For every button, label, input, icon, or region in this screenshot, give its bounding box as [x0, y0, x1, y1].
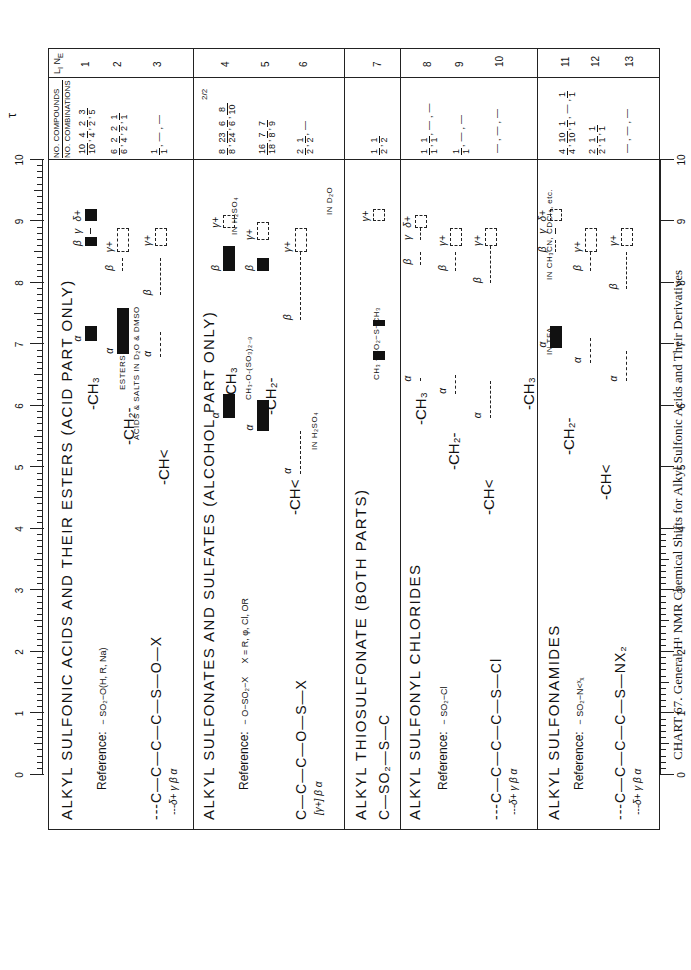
- axis-minor-tick: [37, 516, 43, 517]
- section-divider: [344, 48, 345, 830]
- axis-minor-tick: [660, 676, 666, 677]
- greek-label: δ+: [72, 210, 83, 221]
- shift-range-box-dashed: [450, 228, 462, 246]
- axis-minor-tick: [37, 688, 43, 689]
- axis-minor-tick: [34, 313, 43, 314]
- line-number: 2: [112, 61, 123, 67]
- axis-major-tick: [660, 282, 674, 283]
- axis-tick-label: 6: [676, 403, 687, 409]
- greek-label: α: [572, 357, 583, 363]
- axis-major-tick: [660, 651, 674, 652]
- shift-range-box-dashed: [585, 228, 597, 253]
- compound-fractions: 11,11,—,—: [420, 100, 439, 156]
- axis-minor-tick: [37, 257, 43, 258]
- shift-range-line-dashed: [122, 258, 123, 270]
- axis-minor-tick: [37, 608, 43, 609]
- axis-minor-tick: [37, 694, 43, 695]
- axis-minor-tick: [37, 491, 43, 492]
- axis-major-tick: [30, 344, 44, 345]
- axis-minor-tick: [660, 756, 666, 757]
- line-number: 9: [454, 61, 465, 67]
- axis-minor-tick: [660, 534, 666, 535]
- axis-minor-tick: [37, 479, 43, 480]
- axis-minor-tick: [660, 571, 666, 572]
- section-title-sulfonyl-chlorides: ALKYL SULFONYL CHLORIDES: [406, 563, 423, 820]
- axis-tick-label: 1: [14, 711, 25, 717]
- axis-minor-tick: [37, 719, 43, 720]
- shift-range-bar: [257, 400, 269, 431]
- axis-minor-tick: [660, 583, 666, 584]
- axis-minor-tick: [34, 190, 43, 191]
- section-title-sulfonic-acids: ALKYL SULFONIC ACIDS AND THEIR ESTERS (A…: [58, 279, 75, 820]
- greek-label: γ+: [142, 235, 153, 246]
- axis-tick-label: 4: [14, 526, 25, 532]
- note-ch3o-so3: CH₃-O-(SO₃)₂₋₉: [244, 336, 253, 400]
- axis-minor-tick: [37, 706, 43, 707]
- axis-minor-tick: [37, 307, 43, 308]
- axis-minor-tick: [37, 177, 43, 178]
- group-ch3: -CH₃: [84, 377, 101, 410]
- greek-label: γ+: [572, 241, 583, 252]
- axis-major-tick: [660, 467, 674, 468]
- axis-tick-label: 1: [676, 711, 687, 717]
- line-number: 3: [152, 61, 163, 67]
- greek-label: δ+: [402, 216, 413, 227]
- axis-minor-tick: [37, 319, 43, 320]
- axis-minor-tick: [660, 614, 666, 615]
- axis-major-tick: [30, 590, 44, 591]
- compound-fractions: 88,2324,66,810: [218, 102, 237, 156]
- axis-minor-tick: [34, 251, 43, 252]
- compound-extra: 2/2: [200, 89, 209, 100]
- greek-label: α: [72, 336, 83, 342]
- greek-label: β: [142, 290, 153, 296]
- shift-range-line-dashed: [490, 381, 491, 418]
- line-number: 4: [220, 61, 231, 67]
- axis-minor-tick: [37, 602, 43, 603]
- axis-major-tick: [30, 467, 44, 468]
- axis-minor-tick: [37, 571, 43, 572]
- axis-tick-label: 6: [14, 403, 25, 409]
- greek-label: γ+: [437, 235, 448, 246]
- axis-minor-tick: [37, 546, 43, 547]
- section-title-sulfonates: ALKYL SULFONATES AND SULFATES (ALCOHOL P…: [200, 311, 217, 820]
- compound-fractions: 22,12,—: [296, 118, 315, 156]
- axis-minor-tick: [37, 294, 43, 295]
- shift-range-line-dashed: [626, 252, 627, 289]
- axis-minor-tick: [660, 700, 666, 701]
- greek-label: α: [104, 348, 115, 354]
- axis-major-tick: [660, 344, 674, 345]
- greek-label: β: [437, 265, 448, 271]
- axis-minor-tick: [660, 657, 666, 658]
- greek-label: α: [244, 425, 255, 431]
- shift-range-line-dashed: [555, 240, 556, 252]
- axis-minor-tick: [660, 669, 666, 670]
- section-divider: [400, 48, 401, 830]
- axis-minor-tick: [37, 325, 43, 326]
- shift-range-box-dashed: [550, 209, 562, 221]
- line-number: 8: [422, 61, 433, 67]
- axis-minor-tick: [37, 214, 43, 215]
- axis-minor-tick: [660, 639, 666, 640]
- greek-label: γ+: [282, 241, 293, 252]
- axis-minor-tick: [37, 233, 43, 234]
- greek-label: β: [72, 240, 83, 246]
- shift-range-box-dashed: [621, 228, 633, 246]
- axis-minor-tick: [660, 768, 666, 769]
- compound-fractions: 1010,44,22,35: [78, 107, 97, 156]
- axis-tick-label: 2: [676, 649, 687, 655]
- axis-tick-label: 3: [676, 588, 687, 594]
- axis-minor-tick: [660, 565, 666, 566]
- axis-minor-tick: [660, 706, 666, 707]
- line-number: 11: [560, 57, 571, 67]
- section-title-thiosulfonate: ALKYL THIOSULFONATE (BOTH PARTS): [352, 489, 369, 820]
- axis-minor-tick: [37, 768, 43, 769]
- axis-minor-tick: [34, 436, 43, 437]
- axis-minor-tick: [37, 184, 43, 185]
- section-divider: [537, 48, 538, 830]
- axis-minor-tick: [37, 460, 43, 461]
- axis-minor-tick: [37, 596, 43, 597]
- shift-range-line-dashed: [160, 258, 161, 295]
- axis-tick-label: 10: [676, 154, 687, 165]
- line-number: 1: [80, 61, 91, 67]
- axis-minor-tick: [37, 208, 43, 209]
